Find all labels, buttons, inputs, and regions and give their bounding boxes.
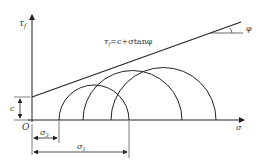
origin-label: O xyxy=(22,122,30,132)
cohesion-label: c xyxy=(10,104,15,113)
sigma1-label: σ1 xyxy=(77,142,86,152)
mohr-coulomb-diagram: τf σ O τf=c+σtanφ φ c σ3 σ1 xyxy=(0,0,256,167)
sigma3-label: σ3 xyxy=(40,128,49,138)
phi-arc xyxy=(230,28,232,33)
sigma-axis-label: σ xyxy=(236,123,242,132)
equation-label: τf=c+σtanφ xyxy=(104,37,153,48)
tau-axis-label: τf xyxy=(19,18,28,30)
phi-label: φ xyxy=(246,24,252,33)
mohr-circle-2 xyxy=(83,71,182,168)
failure-envelope xyxy=(32,22,241,97)
